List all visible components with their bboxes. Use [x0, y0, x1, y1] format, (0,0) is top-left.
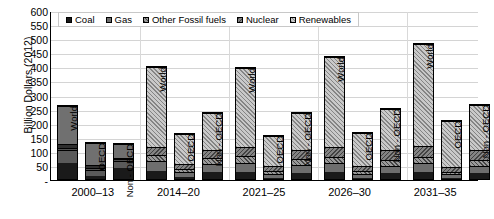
bar-label: Non - OECD: [471, 78, 480, 131]
bar[interactable]: Non - OECD: [113, 143, 134, 180]
bar-segment-coal: [292, 173, 311, 179]
y-axis-tick-label: 300: [12, 92, 48, 102]
group-separator: [318, 12, 319, 180]
bar-segment-gas: [381, 166, 400, 174]
bar-label: OECD: [443, 108, 452, 135]
bar-label: Non - OECD: [204, 87, 213, 140]
bar-label: OECD: [87, 129, 96, 156]
y-axis-tick-label: -: [12, 176, 48, 186]
bar-group: WorldOECDNon - OECD: [407, 12, 494, 180]
y-axis-tick-label: 200: [12, 120, 48, 130]
y-axis-tick-label: 600: [12, 7, 48, 17]
bar-groups: WorldOECDNon - OECDWorldOECDNon - OECDWo…: [51, 12, 478, 180]
y-axis-tick-label: 550: [12, 21, 48, 31]
x-axis-tick-labels: 2000–132014–202021–252026–302031–35: [50, 186, 478, 198]
x-axis-tick-label: 2021–25: [221, 186, 307, 198]
legend-item-gas[interactable]: Gas: [106, 14, 132, 25]
legend-swatch-coal-icon: [66, 17, 72, 23]
legend-swatch-renew-icon: [290, 17, 296, 23]
bar-segment-coal: [414, 172, 433, 179]
bar-label: World: [237, 55, 246, 80]
x-axis-tick-label: 2000–13: [50, 186, 136, 198]
bar-segment-coal: [236, 172, 255, 179]
legend-label: Coal: [75, 14, 95, 25]
legend-label: Other Fossil fuels: [152, 14, 226, 25]
bar-segment-nuclear: [147, 147, 166, 155]
bar-segment-nuclear: [414, 146, 433, 157]
bar-group: WorldOECDNon - OECD: [318, 12, 407, 180]
bar[interactable]: World: [146, 66, 167, 180]
group-separator: [407, 12, 408, 180]
bar[interactable]: Non - OECD: [469, 104, 490, 180]
bar[interactable]: Non - OECD: [202, 112, 223, 180]
bar-segment-coal: [175, 177, 194, 179]
legend-label: Nuclear: [246, 14, 279, 25]
y-axis-tick-label: 150: [12, 134, 48, 144]
bar-label: OECD: [354, 119, 363, 146]
bar[interactable]: OECD: [441, 120, 462, 180]
bar-label: OECD: [176, 120, 185, 147]
legend-item-nuclear[interactable]: Nuclear: [237, 14, 279, 25]
y-axis-tick-label: 350: [12, 77, 48, 87]
bar-group: WorldOECDNon - OECD: [140, 12, 229, 180]
bar[interactable]: World: [413, 43, 434, 180]
legend-item-coal[interactable]: Coal: [66, 14, 95, 25]
bar-segment-nuclear: [236, 147, 255, 157]
chart-legend: CoalGasOther Fossil fuelsNuclearRenewabl…: [58, 12, 359, 27]
bar-group: WorldOECDNon - OECD: [229, 12, 318, 180]
bar[interactable]: OECD: [174, 133, 195, 180]
bar-segment-coal: [470, 173, 489, 179]
bar-segment-coal: [264, 178, 283, 179]
y-axis-tick-label: 250: [12, 106, 48, 116]
bar-segment-coal: [353, 178, 372, 179]
bar[interactable]: World: [235, 67, 256, 181]
y-axis-tick-label: 450: [12, 49, 48, 59]
plot-area: WorldOECDNon - OECDWorldOECDNon - OECDWo…: [50, 12, 478, 181]
bar[interactable]: World: [57, 105, 78, 180]
bar-segment-coal: [325, 172, 344, 179]
bar-group: WorldOECDNon - OECD: [51, 12, 140, 180]
y-axis-tick-label: 500: [12, 35, 48, 45]
legend-swatch-gas-icon: [106, 17, 112, 23]
legend-item-renew[interactable]: Renewables: [290, 14, 351, 25]
group-separator: [140, 12, 141, 180]
bar[interactable]: Non - OECD: [380, 108, 401, 180]
bar-label: Non - OECD: [382, 83, 391, 136]
y-axis-tick-labels: 60055050045040035030025020015010050-: [12, 0, 48, 219]
bar[interactable]: Non - OECD: [291, 112, 312, 180]
bar-segment-coal: [147, 171, 166, 179]
bar-segment-coal: [442, 178, 461, 179]
bar-label: Non - OECD: [115, 117, 124, 170]
bar[interactable]: World: [324, 56, 345, 180]
bar-segment-gas: [236, 163, 255, 172]
bar-segment-gas: [58, 150, 77, 163]
bar[interactable]: OECD: [85, 142, 106, 180]
bar-label: World: [415, 32, 424, 57]
y-axis-tick-label: 400: [12, 63, 48, 73]
bar-label: Non - OECD: [293, 86, 302, 139]
legend-item-other[interactable]: Other Fossil fuels: [143, 14, 226, 25]
bar-segment-coal: [203, 172, 222, 179]
legend-swatch-other-icon: [143, 17, 149, 23]
bar-label: World: [148, 55, 157, 80]
bar-segment-gas: [470, 166, 489, 173]
x-axis-tick-label: 2026–30: [307, 186, 393, 198]
group-separator: [229, 12, 230, 180]
y-axis-tick-label: 50: [12, 162, 48, 172]
x-axis-tick-label: 2014–20: [136, 186, 222, 198]
bar-segment-nuclear: [325, 147, 344, 158]
bar-segment-coal: [58, 163, 77, 179]
bar-label: OECD: [265, 122, 274, 149]
x-axis-tick-label: 2031–35: [392, 186, 478, 198]
legend-swatch-nuclear-icon: [237, 17, 243, 23]
legend-label: Gas: [115, 14, 132, 25]
legend-label: Renewables: [299, 14, 351, 25]
bar-segment-gas: [325, 163, 344, 172]
bar-segment-coal: [381, 173, 400, 179]
bar[interactable]: OECD: [263, 135, 284, 180]
bar[interactable]: OECD: [352, 132, 373, 180]
bar-label: World: [326, 45, 335, 70]
bar-segment-coal: [86, 176, 105, 179]
bar-label: World: [59, 93, 68, 118]
